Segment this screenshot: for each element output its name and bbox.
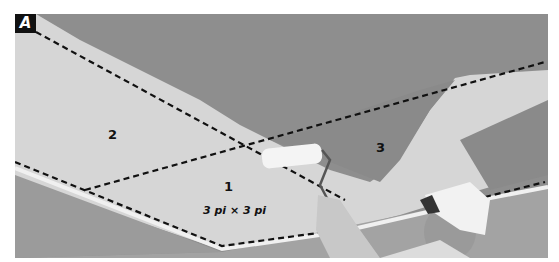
- region-label-3: 3: [376, 140, 385, 155]
- ceiling-painting-photo: [15, 14, 548, 258]
- dimension-label: 3 pi × 3 pi: [203, 204, 266, 217]
- photo-illustration: [15, 14, 548, 258]
- region-label-2: 2: [108, 127, 117, 142]
- region-label-1: 1: [224, 179, 233, 194]
- figure-badge: A: [15, 14, 36, 33]
